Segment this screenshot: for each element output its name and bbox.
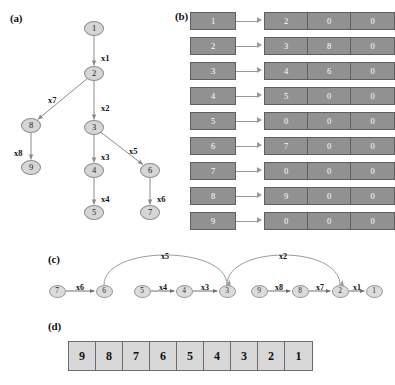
adjacency-cell: 0 <box>351 13 394 29</box>
adjacency-cell: 0 <box>308 188 351 204</box>
chain-arrowhead-8-2 <box>326 289 331 293</box>
adjacency-cells: 900 <box>264 187 395 205</box>
array-cell: 3 <box>231 342 258 370</box>
tree-node-6: 6 <box>140 163 160 178</box>
adjacency-head-5: 5 <box>190 112 236 130</box>
adjacency-cell: 7 <box>265 138 308 154</box>
chain-arrowhead-7-6 <box>90 289 95 293</box>
chain-arrowhead-4-3 <box>213 289 218 293</box>
adjacency-cell: 0 <box>351 63 394 79</box>
tree-edge-label-x1: x1 <box>101 53 110 63</box>
tree-edge-label-x3: x3 <box>101 152 110 162</box>
tree-arrowhead-1-2 <box>92 61 96 66</box>
chain-arrowhead-9-8 <box>286 289 291 293</box>
adjacency-cell: 0 <box>351 188 394 204</box>
adjacency-row: 4500 <box>190 87 395 105</box>
adjacency-arrow-icon <box>236 12 264 30</box>
adjacency-head-8: 8 <box>190 187 236 205</box>
adjacency-row: 8900 <box>190 187 395 205</box>
adjacency-row: 6700 <box>190 137 395 155</box>
adjacency-cell: 0 <box>351 38 394 54</box>
adjacency-row: 2380 <box>190 37 395 55</box>
adjacency-row: 1200 <box>190 12 395 30</box>
adjacency-cell: 0 <box>351 113 394 129</box>
tree-arrowhead-4-5 <box>92 200 96 205</box>
tree-arrowhead-2-3 <box>92 115 96 120</box>
adjacency-cell: 8 <box>308 38 351 54</box>
tree-edge-2-8 <box>38 79 88 120</box>
chain-node-7: 7 <box>49 285 66 298</box>
chain-edge-label-x8: x8 <box>275 283 283 292</box>
array-cell: 8 <box>96 342 123 370</box>
tree-node-9: 9 <box>21 160 41 175</box>
adjacency-cell: 0 <box>308 213 351 229</box>
adjacency-cell: 0 <box>308 138 351 154</box>
array-cell: 2 <box>258 342 285 370</box>
adjacency-arrow-icon <box>236 62 264 80</box>
adjacency-cell: 0 <box>308 113 351 129</box>
adjacency-head-9: 9 <box>190 212 236 230</box>
adjacency-head-1: 1 <box>190 12 236 30</box>
figure-root: (a) (b) (c) (d) 123456789 x1x2x7x3x5x4x6… <box>0 0 395 385</box>
tree-arrowhead-8-9 <box>29 155 33 160</box>
adjacency-head-6: 6 <box>190 137 236 155</box>
adjacency-row: 3460 <box>190 62 395 80</box>
adjacency-head-7: 7 <box>190 162 236 180</box>
adjacency-cell: 0 <box>308 13 351 29</box>
panel-label-b: (b) <box>175 10 188 22</box>
chain-edge-label-x6: x6 <box>76 283 84 292</box>
chain-node-4: 4 <box>176 285 193 298</box>
adjacency-arrow-icon <box>236 112 264 130</box>
adjacency-cells: 000 <box>264 162 395 180</box>
tree-edge-label-x7: x7 <box>48 95 57 105</box>
adjacency-cell: 5 <box>265 88 308 104</box>
adjacency-cell: 0 <box>351 163 394 179</box>
adjacency-cells: 000 <box>264 112 395 130</box>
adjacency-cell: 0 <box>308 88 351 104</box>
chain-node-5: 5 <box>134 285 151 298</box>
adjacency-cell: 0 <box>265 113 308 129</box>
adjacency-arrow-icon <box>236 87 264 105</box>
adjacency-cell: 0 <box>265 213 308 229</box>
tree-node-2: 2 <box>84 66 104 81</box>
adjacency-arrow-icon <box>236 162 264 180</box>
tree-node-4: 4 <box>84 163 104 178</box>
chain-edge-label-x7: x7 <box>316 283 324 292</box>
tree-edge-label-x6: x6 <box>157 194 166 204</box>
chain-node-8: 8 <box>292 285 309 298</box>
array-strip: 987654321 <box>68 341 313 371</box>
adjacency-cell: 6 <box>308 63 351 79</box>
adjacency-head-4: 4 <box>190 87 236 105</box>
adjacency-arrow-icon <box>236 187 264 205</box>
adjacency-cell: 9 <box>265 188 308 204</box>
adjacency-cells: 000 <box>264 212 395 230</box>
adjacency-cells: 380 <box>264 37 395 55</box>
adjacency-arrow-icon <box>236 212 264 230</box>
adjacency-cell: 0 <box>351 88 394 104</box>
tree-edge-label-x4: x4 <box>101 194 110 204</box>
chain-edge-label-x3: x3 <box>201 283 209 292</box>
tree-arrowhead-6-7 <box>148 200 152 205</box>
adjacency-arrow-icon <box>236 37 264 55</box>
array-cell: 4 <box>204 342 231 370</box>
adjacency-cell: 0 <box>351 213 394 229</box>
tree-node-7: 7 <box>140 205 160 220</box>
array-cell: 6 <box>150 342 177 370</box>
chain-node-1: 1 <box>366 285 383 298</box>
adjacency-row: 7000 <box>190 162 395 180</box>
tree-edge-label-x2: x2 <box>101 103 110 113</box>
tree-node-3: 3 <box>84 120 104 135</box>
adjacency-cells: 500 <box>264 87 395 105</box>
adjacency-cell: 2 <box>265 13 308 29</box>
tree-node-5: 5 <box>84 205 104 220</box>
adjacency-cells: 200 <box>264 12 395 30</box>
adjacency-row: 9000 <box>190 212 395 230</box>
chain-edge-label-x4: x4 <box>159 283 167 292</box>
array-cell: 5 <box>177 342 204 370</box>
tree-edge-label-x8: x8 <box>14 148 23 158</box>
tree-node-8: 8 <box>21 118 41 133</box>
adjacency-cells: 460 <box>264 62 395 80</box>
adjacency-cells: 700 <box>264 137 395 155</box>
panel-label-c: (c) <box>48 253 60 265</box>
chain-node-9: 9 <box>251 285 268 298</box>
